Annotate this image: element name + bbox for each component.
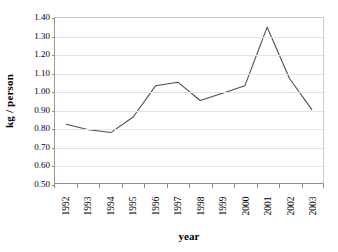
x-axis-tick-label-text: 2002 — [285, 197, 295, 216]
x-axis-tick-label: 1996 — [149, 189, 161, 227]
x-axis-tick-label: 1994 — [104, 189, 116, 227]
x-axis-tick-label-text: 1993 — [83, 197, 93, 216]
x-axis-tick-label-text: 1996 — [150, 197, 160, 216]
x-axis-tick-label: 1998 — [194, 189, 206, 227]
gridline — [55, 92, 323, 93]
y-axis-tickmark — [52, 37, 55, 38]
y-axis-tick-label: 0.90 — [34, 105, 50, 115]
x-axis-tick-label: 1993 — [82, 189, 94, 227]
y-axis-tick-label: 1.10 — [34, 68, 50, 78]
x-axis-tick-label: 1992 — [59, 189, 71, 227]
gridline — [55, 111, 323, 112]
y-axis-title-text: kg / person — [3, 73, 15, 127]
x-axis-title: year — [54, 230, 324, 242]
y-axis-tick-label: 0.80 — [34, 123, 50, 133]
y-axis-tick-label: 1.20 — [34, 49, 50, 59]
x-axis-tick-label-text: 1998 — [195, 197, 205, 216]
series-line — [55, 18, 323, 183]
plot-area — [54, 17, 324, 184]
x-axis-tickmark — [257, 184, 258, 188]
x-axis-tickmark — [279, 184, 280, 188]
y-axis-tickmark — [52, 166, 55, 167]
y-axis-tickmark — [52, 129, 55, 130]
x-axis-tickmark — [323, 184, 324, 188]
y-axis-tick-label: 0.60 — [34, 160, 50, 170]
x-axis-tick-label: 2000 — [239, 189, 251, 227]
y-axis-tickmark — [52, 111, 55, 112]
x-axis-tick-label: 2003 — [307, 189, 319, 227]
x-axis-tick-label-text: 2003 — [308, 197, 318, 216]
x-axis-tick-label-text: 1992 — [60, 197, 70, 216]
x-axis-tickmark — [122, 184, 123, 188]
x-axis-tick-label: 2002 — [284, 189, 296, 227]
y-axis-tick-label: 1.30 — [34, 31, 50, 41]
x-axis-tickmark — [167, 184, 168, 188]
y-axis-tick-labels: 1.401.301.201.101.000.900.800.700.600.50 — [16, 17, 52, 184]
x-axis-tick-label: 2001 — [262, 189, 274, 227]
x-axis-tickmark — [99, 184, 100, 188]
gridline — [55, 74, 323, 75]
x-axis-tick-label: 1999 — [217, 189, 229, 227]
x-axis-tick-label: 1997 — [172, 189, 184, 227]
x-axis-tick-label-text: 1997 — [173, 197, 183, 216]
x-axis-tick-label-text: 1995 — [128, 197, 138, 216]
x-axis-tickmark — [144, 184, 145, 188]
y-axis-tickmark — [52, 18, 55, 19]
x-axis-tick-label-text: 1999 — [218, 197, 228, 216]
gridline — [55, 129, 323, 130]
gridline — [55, 148, 323, 149]
y-axis-tick-label: 0.50 — [34, 179, 50, 189]
x-axis-tick-labels: 1992199319941995199619971998199920002001… — [54, 189, 324, 227]
line-chart: kg / person 1.401.301.201.101.000.900.80… — [0, 0, 338, 252]
y-axis-tick-label: 0.70 — [34, 142, 50, 152]
y-axis-tick-label: 1.40 — [34, 12, 50, 22]
y-axis-tickmark — [52, 148, 55, 149]
y-axis-tickmark — [52, 55, 55, 56]
x-axis-tick-label-text: 2000 — [240, 197, 250, 216]
x-axis-tickmark — [54, 184, 55, 188]
x-axis-tick-label-text: 2001 — [263, 197, 273, 216]
x-axis-tickmark — [234, 184, 235, 188]
x-axis-tick-label: 1995 — [127, 189, 139, 227]
y-axis-tickmark — [52, 92, 55, 93]
x-axis-tickmark — [302, 184, 303, 188]
gridline — [55, 37, 323, 38]
y-axis-tick-label: 1.00 — [34, 86, 50, 96]
x-axis-tickmark — [212, 184, 213, 188]
x-axis-tickmark — [189, 184, 190, 188]
series-polyline — [66, 27, 312, 132]
gridline — [55, 55, 323, 56]
gridline — [55, 166, 323, 167]
x-axis-tick-label-text: 1994 — [105, 197, 115, 216]
x-axis-tickmark — [77, 184, 78, 188]
y-axis-tickmark — [52, 74, 55, 75]
